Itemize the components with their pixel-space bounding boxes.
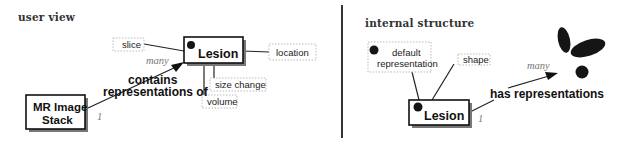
default-representation-label-line1: default [392,47,421,58]
entity-lesion-label: Lesion [198,47,238,61]
slice-connector [144,44,184,51]
internal-structure-title: internal structure [365,17,475,29]
cardinality-many-internal: many [527,60,550,71]
shape-connector [432,64,454,100]
entity-mr-image-stack: MR Image Stack [26,95,88,132]
relationship-label-line2: representations of [103,85,209,99]
attribute-default-representation: default representation [368,42,438,72]
default-representation-connector [412,72,419,100]
arrowhead-icon [171,62,184,72]
user-view-panel: user view slice Lesion location s [18,11,316,132]
attribute-volume-label: volume [207,96,238,107]
diagram-canvas: user view slice Lesion location s [0,0,637,147]
entity-lesion-internal-label: Lesion [424,109,464,123]
entity-lesion-user: Lesion [184,37,246,66]
entity-lesion-internal: Lesion [409,100,472,128]
has-representations-label: has representations [490,87,604,101]
representation-blob-icon [555,26,572,54]
attribute-shape-label: shape [463,54,489,65]
has-representations-line-lower [470,100,494,112]
user-view-title: user view [18,11,76,23]
attribute-shape: shape [458,54,490,65]
attribute-location-label: location [276,47,309,58]
lesion-representations-cluster [555,26,607,78]
entity-mr-stack-label-line1: MR Image [33,101,87,113]
attribute-slice-label: slice [122,39,141,50]
cardinality-many-user: many [146,55,169,66]
location-connector [243,51,269,52]
cardinality-one-internal: 1 [478,113,483,124]
attribute-size-change: size change [210,78,266,91]
attribute-slice: slice [113,38,144,51]
default-blob-icon [370,46,379,55]
representation-blob-icon [568,35,607,61]
lesion-blob-icon [187,41,195,49]
attribute-location: location [269,44,316,60]
internal-structure-panel: internal structure default representatio… [365,17,608,128]
attribute-size-change-label: size change [215,79,266,90]
lesion-blob-icon [414,103,423,112]
default-representation-label-line2: representation [377,58,438,69]
representation-blob-icon [576,66,589,79]
cardinality-one-user: 1 [97,111,102,122]
arrowhead-icon [545,72,558,80]
entity-mr-stack-label-line2: Stack [42,114,73,126]
